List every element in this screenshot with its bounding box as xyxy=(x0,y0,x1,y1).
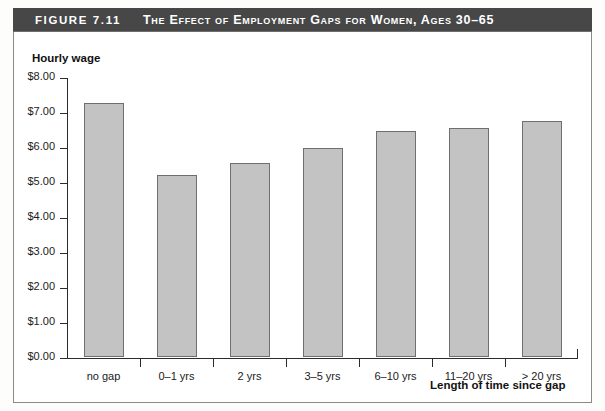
y-tick-label: $2.00 xyxy=(5,280,55,292)
y-tick-label: $3.00 xyxy=(5,245,55,257)
figure-title-bar: FIGURE 7.11 The Effect of Employment Gap… xyxy=(13,8,592,32)
x-tick xyxy=(213,359,214,367)
bar xyxy=(230,163,270,357)
x-tick-label: no gap xyxy=(87,370,121,382)
plot-area: $0.00$1.00$2.00$3.00$4.00$5.00$6.00$7.00… xyxy=(67,78,578,358)
y-tick-label: $4.00 xyxy=(5,210,55,222)
y-tick xyxy=(60,253,67,254)
x-tick xyxy=(140,359,141,367)
y-tick-label: $0.00 xyxy=(5,350,55,362)
y-axis-line xyxy=(67,78,68,359)
x-tick-label: 3–5 yrs xyxy=(304,370,340,382)
x-tick-label: 0–1 yrs xyxy=(158,370,194,382)
y-tick-label: $6.00 xyxy=(5,140,55,152)
bar xyxy=(449,128,489,357)
figure-title: The Effect of Employment Gaps for Women,… xyxy=(143,13,494,27)
y-tick xyxy=(60,113,67,114)
bar xyxy=(376,131,416,357)
x-axis-endcap xyxy=(577,349,578,359)
y-tick xyxy=(60,288,67,289)
figure-number: FIGURE 7.11 xyxy=(35,14,121,26)
x-axis-title: Length of time since gap xyxy=(430,379,565,391)
x-tick xyxy=(432,359,433,367)
y-tick xyxy=(60,183,67,184)
x-tick-label: 6–10 yrs xyxy=(374,370,416,382)
x-axis-line xyxy=(67,358,578,359)
x-tick xyxy=(286,359,287,367)
y-tick xyxy=(60,323,67,324)
x-tick xyxy=(505,359,506,367)
y-tick xyxy=(60,358,67,359)
y-tick-label: $8.00 xyxy=(5,70,55,82)
y-tick xyxy=(60,218,67,219)
x-tick xyxy=(359,359,360,367)
y-tick xyxy=(60,78,67,79)
x-tick-label: 2 yrs xyxy=(238,370,262,382)
y-axis-title: Hourly wage xyxy=(32,52,100,64)
bar xyxy=(303,148,343,357)
bar xyxy=(84,103,124,357)
figure-root: FIGURE 7.11 The Effect of Employment Gap… xyxy=(0,0,605,411)
y-tick-label: $5.00 xyxy=(5,175,55,187)
y-tick-label: $1.00 xyxy=(5,315,55,327)
y-tick-label: $7.00 xyxy=(5,105,55,117)
y-tick xyxy=(60,148,67,149)
bar xyxy=(522,121,562,357)
bar xyxy=(157,175,197,357)
